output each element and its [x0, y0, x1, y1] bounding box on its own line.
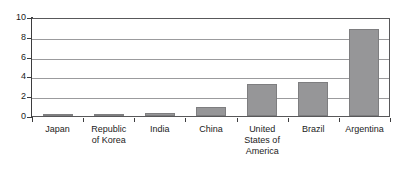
y-axis-tick-label: 4 — [4, 72, 26, 81]
x-axis-tick-label: UnitedStates ofAmerica — [237, 124, 288, 157]
plot-area — [32, 18, 390, 117]
y-axis-tick-label: 8 — [4, 33, 26, 42]
x-axis-tick-label-line: United — [237, 124, 288, 135]
bar-slot — [338, 19, 389, 116]
y-axis-tick-label: 2 — [4, 92, 26, 101]
x-axis-tick-mark — [390, 118, 391, 122]
bar-slot — [32, 19, 83, 116]
y-axis-tick-labels: 0246810 — [0, 0, 26, 169]
x-axis-tick-label-line: of Korea — [83, 135, 134, 146]
x-axis-tick-label-line: America — [237, 146, 288, 157]
x-axis-tick-label-line: China — [185, 124, 236, 135]
x-axis-tick-label: India — [134, 124, 185, 135]
x-axis-tick-label-line: India — [134, 124, 185, 135]
x-axis-tick-mark — [83, 118, 84, 122]
bar[interactable] — [247, 84, 277, 116]
bar-slot — [83, 19, 134, 116]
x-axis-tick-label: Brazil — [288, 124, 339, 135]
y-axis-tick-label: 0 — [4, 112, 26, 121]
x-axis-tick-label: China — [185, 124, 236, 135]
y-axis-tick-label: 10 — [4, 13, 26, 22]
bar[interactable] — [43, 114, 73, 116]
x-axis-tick-mark — [237, 118, 238, 122]
x-axis-tick-mark — [134, 118, 135, 122]
x-axis-tick-mark — [185, 118, 186, 122]
x-axis-tick-label-line: Brazil — [288, 124, 339, 135]
x-axis-tick-label-line: States of — [237, 135, 288, 146]
bar-chart: 0246810 JapanRepublicof KoreaIndiaChinaU… — [0, 0, 403, 169]
x-axis-tick-label-line: Republic — [83, 124, 134, 135]
x-axis-tick-label: Japan — [32, 124, 83, 135]
bar[interactable] — [349, 29, 379, 116]
x-axis-tick-labels: JapanRepublicof KoreaIndiaChinaUnitedSta… — [32, 124, 390, 169]
x-axis-tick-marks — [32, 118, 390, 123]
bar[interactable] — [298, 82, 328, 116]
x-axis-tick-mark — [339, 118, 340, 122]
x-axis-tick-mark — [288, 118, 289, 122]
bar-slot — [185, 19, 236, 116]
bar[interactable] — [94, 114, 124, 116]
bar[interactable] — [196, 107, 226, 116]
x-axis-tick-label-line: Argentina — [339, 124, 390, 135]
y-axis-tick-label: 6 — [4, 53, 26, 62]
bars-layer — [32, 19, 389, 116]
x-axis-tick-mark — [32, 118, 33, 122]
bar-slot — [236, 19, 287, 116]
bar-slot — [134, 19, 185, 116]
bar[interactable] — [145, 113, 175, 116]
x-axis-tick-label: Argentina — [339, 124, 390, 135]
x-axis-tick-label-line: Japan — [32, 124, 83, 135]
bar-slot — [287, 19, 338, 116]
x-axis-tick-label: Republicof Korea — [83, 124, 134, 146]
